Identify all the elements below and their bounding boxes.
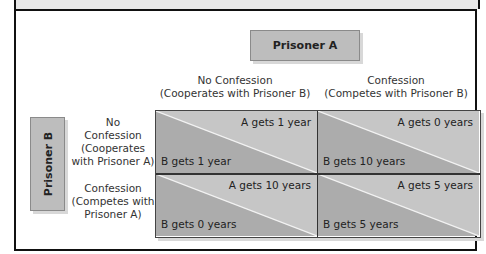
payoff-cell-nc-c: A gets 0 years B gets 10 years — [318, 111, 479, 173]
payoff-b: B gets 5 years — [323, 218, 399, 230]
row-header-no-confession: No Confession (Cooperates with Prisoner … — [70, 116, 156, 168]
payoff-a: A gets 5 years — [398, 179, 473, 191]
grid-divider-horizontal — [156, 173, 480, 175]
payoff-b: B gets 0 years — [161, 218, 237, 230]
prisoner-b-label: Prisoner B — [41, 132, 54, 196]
row-header-line: Prisoner A) — [70, 208, 156, 221]
row-header-line: (Cooperates — [70, 142, 156, 155]
payoff-a: A gets 10 years — [229, 179, 311, 191]
payoff-a: A gets 1 year — [241, 116, 311, 128]
row-header-line: Confession — [70, 129, 156, 142]
top-band — [14, 0, 480, 9]
row-header-line: with Prisoner A) — [70, 155, 156, 168]
column-header-line: (Cooperates with Prisoner B) — [150, 87, 320, 100]
prisoner-a-header: Prisoner A — [250, 30, 360, 61]
payoff-a: A gets 0 years — [398, 116, 473, 128]
column-header-confession: Confession (Competes with Prisoner B) — [311, 74, 481, 100]
payoff-cell-c-nc: A gets 10 years B gets 0 years — [156, 174, 317, 236]
prisoner-a-label: Prisoner A — [273, 39, 337, 52]
payoff-b: B gets 1 year — [161, 155, 231, 167]
row-header-line: Confession — [70, 182, 156, 195]
row-header-confession: Confession (Competes with Prisoner A) — [70, 182, 156, 221]
column-header-line: (Competes with Prisoner B) — [311, 87, 481, 100]
column-header-line: Confession — [311, 74, 481, 87]
column-header-line: No Confession — [150, 74, 320, 87]
payoff-cell-nc-nc: A gets 1 year B gets 1 year — [156, 111, 317, 173]
row-header-line: (Competes with — [70, 195, 156, 208]
payoff-cell-c-c: A gets 5 years B gets 5 years — [318, 174, 479, 236]
prisoner-b-header: Prisoner B — [30, 117, 65, 211]
column-header-no-confession: No Confession (Cooperates with Prisoner … — [150, 74, 320, 100]
row-header-line: No — [70, 116, 156, 129]
payoff-b: B gets 10 years — [323, 155, 405, 167]
payoff-matrix: A gets 1 year B gets 1 year A gets 0 yea… — [155, 110, 481, 238]
